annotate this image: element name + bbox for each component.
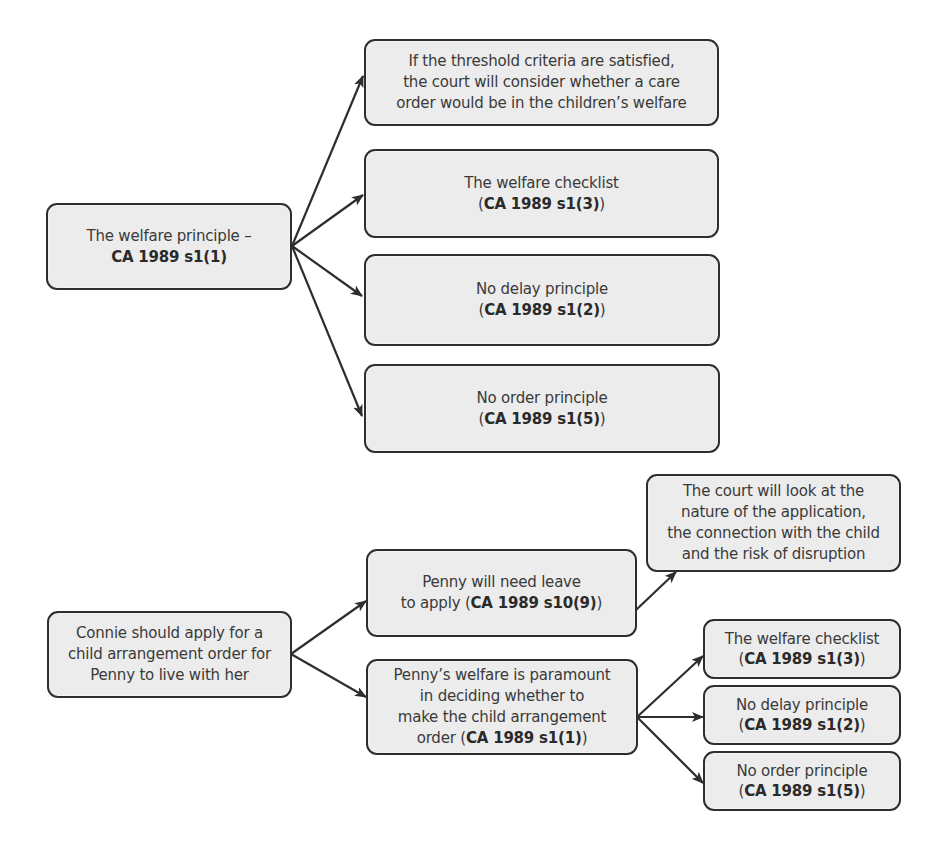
statute-citation: CA 1989 s1(2)	[744, 716, 860, 734]
node-title: The welfare checklist	[725, 629, 879, 649]
node-text-line: Penny to live with her	[68, 665, 271, 686]
node-citation-line: (CA 1989 s1(2))	[736, 715, 868, 735]
node-no-delay-principle-2: No delay principle (CA 1989 s1(2))	[703, 685, 901, 745]
node-citation-line: (CA 1989 s1(2))	[476, 300, 608, 321]
node-text-line: make the child arrangement	[394, 707, 611, 728]
arrow-paramount-to-no-order	[637, 717, 703, 783]
node-text-line: nature of the application,	[667, 502, 880, 523]
node-citation-line: (CA 1989 s1(5))	[476, 409, 607, 430]
node-text-line: Penny’s welfare is paramount	[394, 665, 611, 686]
statute-citation: CA 1989 s1(5)	[744, 782, 860, 800]
node-citation-line: (CA 1989 s1(3))	[464, 194, 618, 215]
arrow-root-to-checklist	[292, 195, 363, 246]
statute-citation: CA 1989 s1(3)	[744, 650, 860, 668]
node-welfare-checklist-2: The welfare checklist (CA 1989 s1(3))	[703, 619, 901, 679]
node-text-line: The court will look at the	[667, 481, 880, 502]
statute-citation: CA 1989 s1(2)	[484, 301, 600, 319]
node-text-line: child arrangement order for	[68, 644, 271, 665]
node-citation-line: to apply (CA 1989 s10(9))	[401, 593, 602, 614]
node-citation-line: order (CA 1989 s1(1))	[394, 728, 611, 749]
arrow-root-to-threshold	[292, 76, 363, 246]
node-text-line: Connie should apply for a	[68, 623, 271, 644]
node-text-line: and the risk of disruption	[667, 544, 880, 565]
node-text: to apply (	[401, 594, 471, 612]
node-text: The welfare principle –	[87, 226, 252, 247]
statute-citation: CA 1989 s1(1)	[466, 729, 582, 747]
statute-citation: CA 1989 s1(1)	[87, 247, 252, 268]
node-title: No order principle	[736, 761, 867, 781]
node-text-line: order would be in the children’s welfare	[396, 93, 686, 114]
node-title: No delay principle	[736, 695, 868, 715]
statute-citation: CA 1989 s1(3)	[484, 195, 600, 213]
diagram-1-arrows	[292, 76, 363, 416]
node-text-line: the connection with the child	[667, 523, 880, 544]
node-no-order-principle: No order principle (CA 1989 s1(5))	[364, 364, 720, 453]
node-leave-factors: The court will look at the nature of the…	[646, 474, 901, 572]
node-text: )	[597, 594, 603, 612]
node-welfare-checklist: The welfare checklist (CA 1989 s1(3))	[364, 149, 719, 238]
node-citation-line: (CA 1989 s1(5))	[736, 781, 867, 801]
node-welfare-principle: The welfare principle – CA 1989 s1(1)	[46, 203, 292, 290]
node-no-order-principle-2: No order principle (CA 1989 s1(5))	[703, 751, 901, 811]
node-text-line: If the threshold criteria are satisfied,	[396, 51, 686, 72]
node-title: No delay principle	[476, 279, 608, 300]
node-text: )	[582, 729, 588, 747]
arrow-root-to-paramount	[291, 654, 366, 697]
node-text-line: in deciding whether to	[394, 686, 611, 707]
node-citation-line: (CA 1989 s1(3))	[725, 649, 879, 669]
statute-citation: CA 1989 s1(5)	[484, 410, 600, 428]
node-connie-apply: Connie should apply for a child arrangem…	[47, 611, 292, 698]
node-no-delay-principle: No delay principle (CA 1989 s1(2))	[364, 254, 720, 346]
node-need-leave: Penny will need leave to apply (CA 1989 …	[366, 549, 637, 637]
arrow-root-to-no-delay	[292, 246, 362, 296]
arrow-root-to-no-order	[292, 246, 362, 416]
node-title: No order principle	[476, 388, 607, 409]
node-text-line: the court will consider whether a care	[396, 72, 686, 93]
arrow-paramount-to-checklist	[637, 656, 703, 717]
node-text-line: Penny will need leave	[401, 572, 602, 593]
statute-citation: CA 1989 s10(9)	[471, 594, 597, 612]
arrow-root-to-leave	[291, 601, 366, 654]
node-text: order (	[417, 729, 466, 747]
arrow-leave-to-factors	[636, 572, 676, 610]
node-welfare-paramount: Penny’s welfare is paramount in deciding…	[366, 659, 638, 755]
node-threshold-criteria: If the threshold criteria are satisfied,…	[364, 39, 719, 126]
node-title: The welfare checklist	[464, 173, 618, 194]
